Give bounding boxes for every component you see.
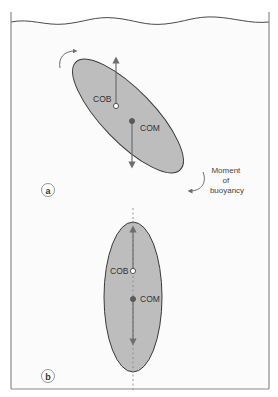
com-point-b <box>130 296 135 301</box>
com-point <box>129 118 134 123</box>
cob-point-b <box>130 268 135 273</box>
panel-b-label: b <box>45 372 51 382</box>
cob-label: COB <box>93 94 112 104</box>
com-label-b: COM <box>140 294 160 304</box>
com-label: COM <box>140 123 160 133</box>
buoyancy-diagram: COB COM Moment of buoyancy a COB COM b <box>0 0 278 397</box>
cob-point <box>113 103 118 108</box>
cob-label-b: COB <box>110 266 129 276</box>
